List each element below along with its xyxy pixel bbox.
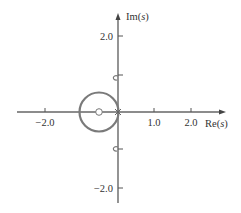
x-tick-label-1: 1.0 bbox=[147, 117, 160, 128]
zero-marker-icon bbox=[96, 109, 103, 116]
root-locus-plot: −2.0 1.0 2.0 2.0 −2.0 Re(s) Im(s) bbox=[0, 0, 241, 213]
real-axis-arrow-icon bbox=[219, 110, 226, 115]
x-tick-label-neg2: −2.0 bbox=[35, 117, 54, 128]
x-tick-label-2: 2.0 bbox=[184, 117, 197, 128]
y-tick-label-2: 2.0 bbox=[100, 31, 113, 42]
x-axis-label: Re(s) bbox=[205, 118, 228, 130]
imaginary-axis-arrow-icon bbox=[116, 13, 121, 20]
y-tick-label-neg2: −2.0 bbox=[94, 183, 113, 194]
y-axis-label: Im(s) bbox=[126, 11, 149, 23]
